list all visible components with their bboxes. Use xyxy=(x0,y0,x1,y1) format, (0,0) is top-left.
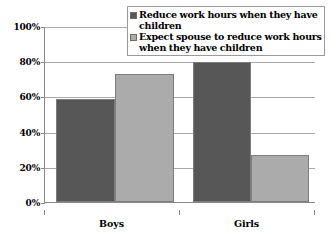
y-axis-tick-label: 100% xyxy=(0,22,40,32)
legend-item: Reduce work hours when they have childre… xyxy=(130,9,322,31)
bar-boys-reduce-work-hours xyxy=(56,99,115,202)
y-axis: 100% 80% 60% 40% 20% 0% xyxy=(0,27,40,203)
x-axis-tickmark xyxy=(44,210,45,215)
y-axis-tick-label: 80% xyxy=(0,57,40,67)
bar-chart: 100% 80% 60% 40% 20% 0% Boys Girls xyxy=(0,0,331,235)
legend-item-label: Reduce work hours when they have childre… xyxy=(139,9,322,31)
legend-item: Expect spouse to reduce work hours when … xyxy=(130,31,322,53)
bar-girls-reduce-work-hours xyxy=(193,62,251,202)
x-axis-tickmark xyxy=(179,210,180,215)
y-axis-tickmark xyxy=(41,203,45,204)
legend-swatch-icon xyxy=(130,34,137,41)
y-axis-tick-label: 40% xyxy=(0,128,40,138)
legend: Reduce work hours when they have childre… xyxy=(127,6,325,56)
x-axis-tickmark xyxy=(314,210,315,215)
gridline-80 xyxy=(45,62,315,63)
x-axis: Boys Girls xyxy=(44,210,315,230)
x-axis-tick-label-boys: Boys xyxy=(69,218,154,230)
x-axis-tick-label-girls: Girls xyxy=(204,218,289,230)
bar-boys-expect-spouse-reduce xyxy=(115,74,174,202)
y-axis-tick-label: 60% xyxy=(0,92,40,102)
y-axis-tick-label: 20% xyxy=(0,163,40,173)
legend-item-label: Expect spouse to reduce work hours when … xyxy=(139,31,322,53)
y-axis-tick-label: 0% xyxy=(0,198,40,208)
bar-girls-expect-spouse-reduce xyxy=(251,155,309,202)
legend-swatch-icon xyxy=(130,12,137,19)
